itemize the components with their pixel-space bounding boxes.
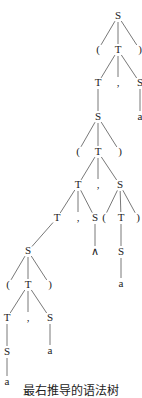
tree-node: ( <box>76 145 80 158</box>
tree-node: ( <box>102 211 106 224</box>
figure-caption: 最右推导的语法树 <box>0 381 142 398</box>
tree-edge <box>10 290 25 313</box>
tree-node: S <box>115 9 121 21</box>
tree-node: ) <box>118 145 122 158</box>
tree-node: T <box>75 178 82 190</box>
tree-node: S <box>95 110 101 122</box>
tree-node: T <box>115 43 122 55</box>
tree-node: , <box>117 76 120 88</box>
tree-edges <box>7 21 140 376</box>
tree-node: S <box>4 345 10 357</box>
tree-node: ∧ <box>91 245 99 257</box>
tree-node: ( <box>96 43 100 56</box>
tree-edge <box>121 55 136 78</box>
tree-edge <box>120 191 121 212</box>
tree-node: S <box>118 245 124 257</box>
tree-edge <box>123 190 135 212</box>
tree-node: S <box>117 178 123 190</box>
tree-node: a <box>48 344 53 356</box>
tree-edge <box>101 122 117 147</box>
tree-node: a <box>119 277 124 289</box>
tree-node: ) <box>48 278 52 291</box>
tree-edge <box>107 190 118 212</box>
tree-node: , <box>27 311 30 323</box>
tree-node: , <box>97 178 100 190</box>
tree-node: T <box>118 211 125 223</box>
tree-node: , <box>77 211 80 223</box>
tree-node: T <box>95 76 102 88</box>
tree-edge <box>31 256 46 280</box>
tree-nodes: S(T)T,SSa(T)T,ST,S(T)∧SaS(T)T,SSaa <box>4 9 142 387</box>
tree-node: T <box>54 211 61 223</box>
tree-edge <box>81 157 95 180</box>
tree-node: a <box>138 110 142 122</box>
tree-edge <box>60 190 75 213</box>
tree-node: T <box>4 311 11 323</box>
tree-edge <box>121 21 136 45</box>
tree-edge <box>31 290 46 313</box>
tree-edge <box>101 21 115 45</box>
tree-node: ( <box>6 278 10 291</box>
tree-node: T <box>95 145 102 157</box>
tree-node: ) <box>136 211 140 224</box>
tree-edge <box>11 256 25 280</box>
tree-edge <box>101 55 115 78</box>
tree-node: ) <box>138 43 142 56</box>
tree-node: S <box>47 311 53 323</box>
tree-edge <box>101 157 116 180</box>
tree-edge <box>32 223 53 247</box>
tree-edge <box>81 122 95 147</box>
tree-node: S <box>92 211 98 223</box>
tree-node: T <box>25 278 32 290</box>
tree-edge <box>81 190 93 212</box>
tree-node: S <box>137 76 142 88</box>
tree-node: S <box>25 244 31 256</box>
